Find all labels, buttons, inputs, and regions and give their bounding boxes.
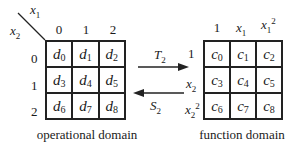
inverse-arrowhead-icon bbox=[133, 89, 144, 97]
grid-cell: d3 bbox=[46, 67, 72, 93]
grid-cell: c7 bbox=[230, 93, 256, 119]
operational-domain-caption: operational domain bbox=[28, 127, 146, 143]
grid-cell: c8 bbox=[256, 93, 282, 119]
grid-cell: d0 bbox=[46, 41, 72, 67]
grid-cell: c0 bbox=[204, 41, 230, 67]
col-header: x12 bbox=[261, 16, 276, 35]
forward-transform-label: T2 bbox=[154, 47, 166, 65]
grid-cell: d7 bbox=[72, 93, 98, 119]
grid-cell: d5 bbox=[99, 67, 125, 93]
col-header: 1 bbox=[211, 20, 223, 36]
grid-cell: d4 bbox=[72, 67, 98, 93]
row-header: x2 bbox=[186, 76, 196, 94]
corner-left-var: x2 bbox=[10, 23, 20, 41]
col-header: 1 bbox=[80, 22, 92, 38]
function-grid: c0 c1 c2 c3 c4 c5 c6 c7 c8 bbox=[203, 40, 283, 120]
row-header: 0 bbox=[31, 51, 38, 67]
row-header: 2 bbox=[31, 104, 38, 120]
grid-cell: d8 bbox=[99, 93, 125, 119]
forward-arrowhead-icon bbox=[178, 63, 189, 71]
grid-cell: c1 bbox=[230, 41, 256, 67]
inverse-transform-label: S2 bbox=[150, 98, 161, 116]
grid-cell: d1 bbox=[72, 41, 98, 67]
row-header: x22 bbox=[185, 101, 200, 120]
col-header: x1 bbox=[236, 20, 246, 38]
grid-cell: d2 bbox=[99, 41, 125, 67]
row-header: 1 bbox=[188, 46, 195, 62]
grid-cell: c3 bbox=[204, 67, 230, 93]
grid-cell: d6 bbox=[46, 93, 72, 119]
col-header: 0 bbox=[53, 22, 65, 38]
corner-top-var: x1 bbox=[30, 2, 40, 20]
row-header: 1 bbox=[31, 78, 38, 94]
operational-grid: d0 d1 d2 d3 d4 d5 d6 d7 d8 bbox=[45, 40, 126, 120]
grid-cell: c4 bbox=[230, 67, 256, 93]
grid-cell: c6 bbox=[204, 93, 230, 119]
function-domain-caption: function domain bbox=[192, 127, 292, 143]
col-header: 2 bbox=[107, 22, 119, 38]
grid-cell: c5 bbox=[256, 67, 282, 93]
grid-cell: c2 bbox=[256, 41, 282, 67]
